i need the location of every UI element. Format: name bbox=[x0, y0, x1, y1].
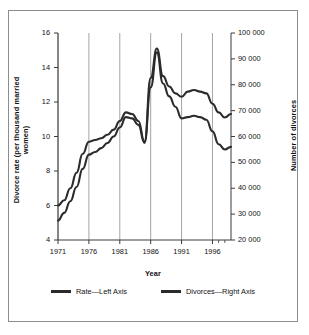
series-line-divorces bbox=[58, 52, 231, 220]
tick-marks bbox=[54, 33, 235, 244]
series-line-rate bbox=[58, 49, 231, 206]
y-right-tick-40000: 40 000 bbox=[238, 183, 286, 192]
y-left-tick-12: 12 bbox=[20, 97, 50, 106]
y-right-tick-20000: 20 000 bbox=[238, 235, 286, 244]
y-left-tick-8: 8 bbox=[20, 166, 50, 175]
x-tick-1996: 1996 bbox=[192, 247, 232, 256]
y-left-tick-10: 10 bbox=[20, 132, 50, 141]
y-left-tick-14: 14 bbox=[20, 63, 50, 72]
legend-swatch-rate bbox=[51, 290, 71, 293]
y-right-tick-100000: 100 000 bbox=[238, 28, 286, 37]
legend-label-rate: Rate—Left Axis bbox=[76, 287, 127, 296]
chart-figure: Divorce rate (per thousand married women… bbox=[8, 10, 298, 322]
y-right-tick-90000: 90 000 bbox=[238, 54, 286, 63]
axis-lines bbox=[58, 33, 231, 240]
y-right-tick-50000: 50 000 bbox=[238, 157, 286, 166]
y-right-tick-30000: 30 000 bbox=[238, 209, 286, 218]
y-right-tick-80000: 80 000 bbox=[238, 80, 286, 89]
y-left-tick-4: 4 bbox=[20, 235, 50, 244]
legend-swatch-divorces bbox=[161, 290, 181, 293]
y-right-tick-70000: 70 000 bbox=[238, 106, 286, 115]
y-left-tick-6: 6 bbox=[20, 201, 50, 210]
legend-item-rate: Rate—Left Axis bbox=[51, 287, 127, 296]
legend-label-divorces: Divorces—Right Axis bbox=[186, 287, 255, 296]
legend-item-divorces: Divorces—Right Axis bbox=[161, 287, 255, 296]
data-series bbox=[58, 49, 231, 221]
y-left-tick-16: 16 bbox=[20, 28, 50, 37]
chart-legend: Rate—Left Axis Divorces—Right Axis bbox=[9, 287, 297, 296]
y-right-tick-60000: 60 000 bbox=[238, 132, 286, 141]
gridlines bbox=[58, 33, 212, 240]
